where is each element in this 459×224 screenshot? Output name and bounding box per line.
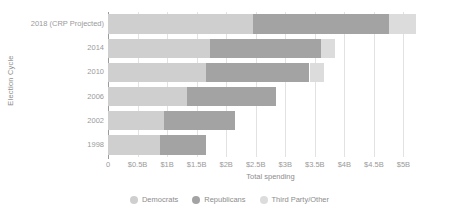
bar-segment[interactable] [389, 14, 416, 33]
bar-segment[interactable] [210, 39, 322, 58]
bar-segment[interactable] [108, 111, 164, 130]
x-axis-tick-label: $2B [219, 160, 232, 169]
bar-segment[interactable] [108, 14, 253, 33]
bar-row[interactable] [108, 87, 433, 106]
x-axis-tick-label: $4.5B [364, 160, 384, 169]
x-axis-tick-label: $0.5B [128, 160, 148, 169]
x-axis-tick-label: $2.5B [246, 160, 266, 169]
bar-series-group [108, 12, 433, 157]
bar-segment[interactable] [108, 87, 187, 106]
legend-item[interactable]: Republicans [192, 195, 245, 204]
bar-row[interactable] [108, 135, 433, 154]
x-axis-tick-label: $3.5B [305, 160, 325, 169]
x-axis-tick-label: $3B [279, 160, 292, 169]
legend-item[interactable]: Democrats [130, 195, 178, 204]
legend-item-label: Democrats [142, 195, 178, 204]
bar-segment[interactable] [108, 39, 210, 58]
bar-row[interactable] [108, 111, 433, 130]
bar-row[interactable] [108, 63, 433, 82]
y-axis-tick-label: 1998 [87, 140, 104, 149]
bar-segment[interactable] [187, 87, 276, 106]
x-axis-tick-label: $4B [338, 160, 351, 169]
stacked-bar-chart: Election Cycle 2018 (CRP Projected)20142… [0, 0, 459, 224]
legend-item-label: Third Party/Other [272, 195, 330, 204]
bar-segment[interactable] [253, 14, 390, 33]
bar-segment[interactable] [164, 111, 235, 130]
plot-area [108, 12, 433, 157]
bar-segment[interactable] [108, 63, 206, 82]
legend-item[interactable]: Third Party/Other [260, 195, 330, 204]
x-axis-tick-labels: 0$0.5B$1B$1.5B$2B$2.5B$3B$3.5B$4B$4.5B$5… [108, 160, 433, 172]
legend-swatch-icon [192, 196, 200, 204]
x-axis-tick-label: $1B [160, 160, 173, 169]
legend-item-label: Republicans [204, 195, 245, 204]
y-axis-tick-label: 2002 [87, 116, 104, 125]
x-axis-title: Total spending [108, 172, 433, 181]
bar-row[interactable] [108, 14, 433, 33]
x-axis-tick-label: $5B [397, 160, 410, 169]
y-axis-tick-label: 2006 [87, 92, 104, 101]
y-axis-tick-label: 2010 [87, 67, 104, 76]
bar-segment[interactable] [108, 135, 160, 154]
y-axis-tick-label: 2018 (CRP Projected) [31, 19, 104, 28]
x-axis-tick-label: 0 [106, 160, 110, 169]
chart-legend: DemocratsRepublicansThird Party/Other [0, 195, 459, 204]
bar-segment[interactable] [206, 63, 309, 82]
y-axis-tick-label: 2014 [87, 43, 104, 52]
legend-swatch-icon [130, 196, 138, 204]
legend-swatch-icon [260, 196, 268, 204]
x-axis-tick-label: $1.5B [187, 160, 207, 169]
bar-segment[interactable] [160, 135, 206, 154]
bar-segment[interactable] [321, 39, 335, 58]
bar-segment[interactable] [310, 63, 325, 82]
bar-row[interactable] [108, 39, 433, 58]
y-axis-tick-labels: 2018 (CRP Projected)20142010200620021998 [14, 12, 104, 157]
